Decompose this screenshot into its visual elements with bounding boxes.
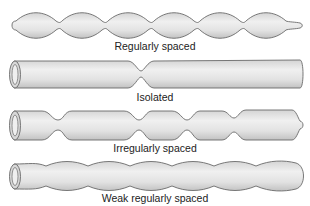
irregularly-spaced-label: Irregularly spaced xyxy=(0,142,310,154)
weak-regularly-spaced-fiber xyxy=(10,161,304,191)
regularly-spaced-fiber xyxy=(12,13,302,39)
irregularly-spaced-fiber xyxy=(10,110,304,140)
regularly-spaced-label: Regularly spaced xyxy=(0,40,310,52)
weak-regularly-spaced-label: Weak regularly spaced xyxy=(0,192,310,204)
diagram-canvas xyxy=(0,0,310,206)
isolated-label: Isolated xyxy=(0,91,310,103)
isolated-fiber xyxy=(10,60,304,88)
